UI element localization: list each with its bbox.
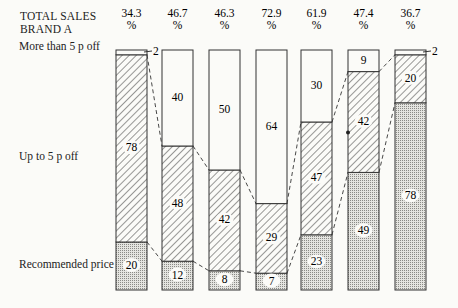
connector-line <box>193 146 209 170</box>
marker-dot <box>346 130 350 134</box>
bar-total-value: 61.9 <box>306 7 326 19</box>
outside-segment-label: 2 <box>153 45 159 57</box>
bar-total-unit: % <box>267 19 277 31</box>
segment-value-label: 12 <box>172 269 184 281</box>
bar-total-unit: % <box>359 19 369 31</box>
segment-value-label: 20 <box>126 259 138 271</box>
segment-value-label: 78 <box>405 189 417 201</box>
segment-value-label: 64 <box>266 120 278 132</box>
connector-line <box>240 170 256 204</box>
segment-value-label: 29 <box>266 231 278 243</box>
segment-value-label: 7 <box>269 275 275 287</box>
segment-value-label: 30 <box>311 79 323 91</box>
connector-line <box>147 242 162 261</box>
segment-value-label: 8 <box>222 273 228 285</box>
connector-line <box>332 172 348 234</box>
bar-total-value: 47.4 <box>353 7 373 19</box>
bar-total-value: 46.3 <box>214 7 234 19</box>
segment-value-label: 49 <box>358 224 370 236</box>
bar-total-value: 34.3 <box>121 7 141 19</box>
bar-total-unit: % <box>312 19 322 31</box>
bar-segment-more-than-5-p-off <box>395 50 426 55</box>
bar-total-value: 72.9 <box>261 7 281 19</box>
segment-value-label: 40 <box>172 91 184 103</box>
segment-value-label: 9 <box>361 54 367 66</box>
connector-line <box>379 103 395 173</box>
outside-segment-label: 2 <box>432 45 438 57</box>
segment-value-label: 23 <box>311 255 323 267</box>
connector-line <box>332 72 348 122</box>
connector-line <box>287 122 301 204</box>
bar-total-unit: % <box>173 19 183 31</box>
connector-line <box>287 235 301 273</box>
bar-total-unit: % <box>406 19 416 31</box>
stacked-bar-chart: 207834.3%12484046.7%8425046.3%7296472.9%… <box>0 0 458 308</box>
segment-value-label: 78 <box>126 141 138 153</box>
connector-line <box>193 261 209 271</box>
segment-value-label: 42 <box>219 213 231 225</box>
segment-value-label: 47 <box>311 171 323 183</box>
bar-total-value: 36.7 <box>400 7 420 19</box>
segment-value-label: 48 <box>172 197 184 209</box>
bar-segment-more-than-5-p-off <box>116 50 147 55</box>
connector-line <box>240 271 256 273</box>
bar-total-unit: % <box>127 19 137 31</box>
segment-value-label: 20 <box>405 72 417 84</box>
segment-value-label: 50 <box>219 103 231 115</box>
connector-line <box>147 55 162 146</box>
segment-value-label: 42 <box>358 115 370 127</box>
connector-line <box>379 55 395 72</box>
bar-total-unit: % <box>220 19 230 31</box>
bar-total-value: 46.7 <box>167 7 187 19</box>
